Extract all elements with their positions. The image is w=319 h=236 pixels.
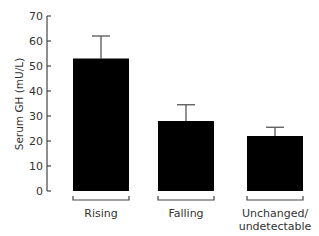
x-category-label: undetectable [239,220,312,233]
x-axis: RisingFallingUnchanged/undetectable [73,196,312,233]
y-axis-label: Serum GH (mU/L) [13,58,25,151]
y-tick-label: 70 [29,10,43,23]
bar [158,121,214,191]
bar-group [73,36,129,191]
bar [73,59,129,192]
y-tick-label: 50 [29,60,43,73]
y-tick-label: 40 [29,85,43,98]
x-category-label: Unchanged/ [242,207,308,220]
bar-group [158,105,214,191]
category-bracket [73,196,129,200]
y-tick-label: 0 [36,185,43,198]
bar-group [247,127,303,191]
x-category-label: Rising [84,207,117,220]
y-tick-label: 30 [29,110,43,123]
x-category-label: Falling [168,207,203,220]
y-tick-label: 10 [29,160,43,173]
bars [73,36,303,191]
category-bracket [158,196,214,200]
y-tick-label: 60 [29,35,43,48]
y-tick-label: 20 [29,135,43,148]
y-axis: 010203040506070 [29,10,51,198]
bar [247,136,303,191]
bar-chart: Serum GH (mU/L) 010203040506070 RisingFa… [0,0,319,236]
category-bracket [247,196,303,200]
